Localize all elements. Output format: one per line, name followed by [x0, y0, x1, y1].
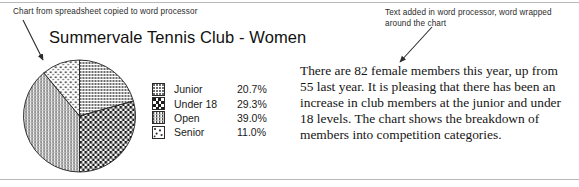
- annotation-chart-source: Chart from spreadsheet copied to word pr…: [13, 7, 197, 18]
- legend-value-junior: 20.7%: [237, 83, 267, 95]
- top-divider-rule: [0, 2, 579, 3]
- pie-chart: [23, 56, 136, 177]
- legend-value-open: 39.0%: [237, 112, 267, 124]
- legend-label-under-18: Under 18: [174, 98, 237, 110]
- legend-swatch-junior: [152, 83, 165, 96]
- chart-title: Summervale Tennis Club - Women: [49, 28, 306, 47]
- body-paragraph: There are 82 female members this year, u…: [300, 63, 572, 143]
- legend-item-open: Open 39.0%: [152, 111, 288, 125]
- chart-legend: Junior 20.7% Under 18 29.3% Open 39.0% S…: [152, 82, 288, 140]
- arrow-to-chart: [23, 20, 43, 60]
- annotation-text-wrap: Text added in word processor, word wrapp…: [385, 8, 552, 29]
- arrow-to-body-text: [400, 27, 432, 62]
- pie-chart-svg: [23, 56, 136, 177]
- legend-label-senior: Senior: [174, 126, 237, 138]
- bottom-divider-rule: [0, 179, 579, 180]
- legend-value-senior: 11.0%: [237, 126, 266, 138]
- legend-item-under-18: Under 18 29.3%: [152, 96, 288, 110]
- legend-label-open: Open: [174, 112, 237, 124]
- legend-item-senior: Senior 11.0%: [152, 125, 288, 139]
- legend-value-under-18: 29.3%: [237, 98, 267, 110]
- legend-swatch-open: [152, 111, 165, 124]
- legend-swatch-senior: [152, 126, 165, 139]
- legend-item-junior: Junior 20.7%: [152, 82, 288, 96]
- legend-swatch-under-18: [152, 97, 165, 110]
- legend-label-junior: Junior: [174, 83, 237, 95]
